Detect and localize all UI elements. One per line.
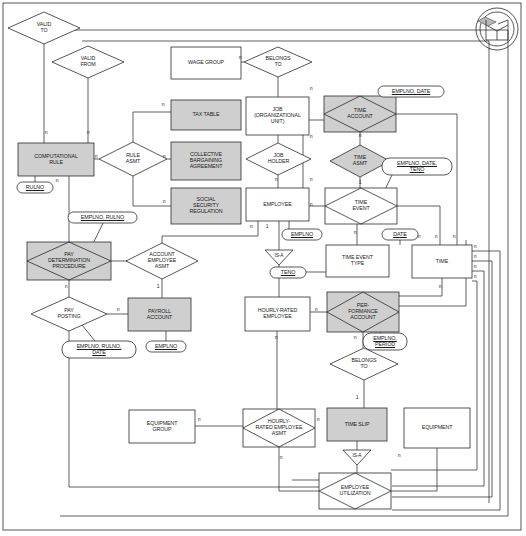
rel-valid-from <box>52 46 124 78</box>
attr-emplno-period-box <box>363 333 407 350</box>
entity-payroll-account <box>128 298 191 331</box>
rel-pay-posting <box>31 297 107 331</box>
entity-wage-group <box>171 47 241 79</box>
entity-cba <box>171 142 241 180</box>
attr-emplno-date-teno-box <box>382 158 452 175</box>
rel-belongs-to-1 <box>244 47 312 77</box>
entity-ssr <box>171 188 241 224</box>
rel-rule-asmt <box>99 142 167 176</box>
entity-equipment <box>404 408 470 448</box>
attr-emplno-date-box <box>378 86 444 97</box>
er-diagram-svg: .s{fill:none;stroke:#2b2b2b;stroke-width… <box>0 0 526 536</box>
open-box-logo <box>476 8 518 50</box>
attr-emplno-rulno-box <box>68 212 137 223</box>
entity-equipment-group <box>129 410 195 443</box>
rel-hourly-rated-asmt-box <box>243 409 315 447</box>
attr-teno-box <box>270 267 306 278</box>
entity-employee <box>246 188 309 221</box>
attr-emplno-rulno-date-box <box>62 341 136 358</box>
entity-computational-rule <box>18 143 94 176</box>
entity-job-org-unit <box>246 97 309 135</box>
rel-employee-utilization-box <box>319 473 391 509</box>
rel-time-asmt <box>330 145 390 177</box>
entity-tax-table <box>171 100 241 130</box>
attr-date-box <box>382 229 418 240</box>
rel-performance-account-box <box>327 292 399 332</box>
rel-time-event-box <box>325 188 397 224</box>
rel-belongs-to-2 <box>330 348 398 380</box>
entity-time-slip <box>327 408 387 441</box>
rel-account-employee-asmt <box>126 243 198 279</box>
attr-emplno-payroll-box <box>146 341 186 352</box>
rel-time-account-box <box>324 96 396 132</box>
rel-pay-determination-box <box>27 242 111 280</box>
entity-time <box>412 245 472 278</box>
rel-valid-to <box>8 12 80 44</box>
isa-employee-triangle <box>265 250 293 265</box>
er-diagram-canvas: .s{fill:none;stroke:#2b2b2b;stroke-width… <box>0 0 526 536</box>
isa-time-slip-triangle <box>343 450 371 465</box>
attr-rulno-box <box>17 182 53 193</box>
rel-job-holder <box>246 143 311 175</box>
attr-emplno-employee-box <box>282 229 322 240</box>
entity-hourly-rated-employee <box>245 297 310 331</box>
entity-time-event-type <box>326 245 389 277</box>
